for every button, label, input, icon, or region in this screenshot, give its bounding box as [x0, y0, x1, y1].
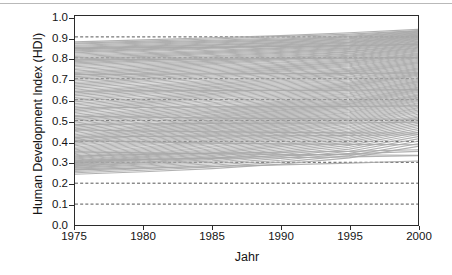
x-tick-label-1990: 1990: [258, 230, 304, 242]
x-tick-mark-1990: [281, 226, 282, 230]
y-tick-label-0.8: 0.8: [42, 52, 68, 64]
x-tick-label-2000: 2000: [396, 230, 442, 242]
x-tick-mark-1975: [74, 226, 75, 230]
y-tick-label-0.2: 0.2: [42, 177, 68, 189]
x-tick-mark-1980: [143, 226, 144, 230]
x-tick-label-1995: 1995: [327, 230, 373, 242]
x-axis-title: Jahr: [74, 250, 420, 264]
series-lines-layer: [75, 16, 418, 225]
y-tick-label-0.9: 0.9: [42, 32, 68, 44]
y-tick-label-0.7: 0.7: [42, 73, 68, 85]
x-tick-mark-1985: [212, 226, 213, 230]
y-tick-label-0.4: 0.4: [42, 136, 68, 148]
x-tick-mark-2000: [419, 226, 420, 230]
y-tick-label-1.0: 1.0: [42, 11, 68, 23]
hdi-trend-chart-figure: Human Development Index (HDI) 0.00.10.20…: [0, 0, 452, 275]
y-tick-label-0.1: 0.1: [42, 198, 68, 210]
x-tick-label-1985: 1985: [189, 230, 235, 242]
x-tick-label-1980: 1980: [120, 230, 166, 242]
y-tick-label-0.3: 0.3: [42, 156, 68, 168]
x-tick-mark-1995: [350, 226, 351, 230]
y-tick-label-0.5: 0.5: [42, 115, 68, 127]
y-tick-label-0.6: 0.6: [42, 94, 68, 106]
plot-area: [74, 15, 419, 226]
x-tick-label-1975: 1975: [51, 230, 97, 242]
